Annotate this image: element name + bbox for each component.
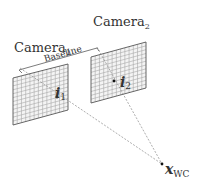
camera1-label: Camera1 bbox=[14, 40, 71, 57]
camera2-label: Camera2 bbox=[93, 14, 150, 31]
image-point-2-dot bbox=[113, 80, 116, 83]
stereo-diagram: Baseline Camera1 Camera2 i1 i2 xWC bbox=[0, 0, 207, 190]
world-point-dot bbox=[161, 163, 164, 166]
world-point-label: xWC bbox=[164, 161, 190, 179]
